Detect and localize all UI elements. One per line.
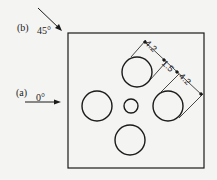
hole-center: [124, 99, 138, 113]
plate-drawing: [0, 0, 217, 180]
hole-top: [122, 57, 152, 87]
angle-b: 45°: [37, 26, 51, 36]
label-a: (a): [16, 88, 27, 98]
label-b: (b): [17, 23, 29, 33]
hole-bottom: [115, 125, 145, 155]
angle-a: 0°: [36, 93, 45, 103]
hole-right: [153, 91, 183, 121]
diagram-canvas: (b) 45° (a) 0° 4.2 1.5 4.2: [0, 0, 217, 180]
hole-left: [82, 91, 112, 121]
